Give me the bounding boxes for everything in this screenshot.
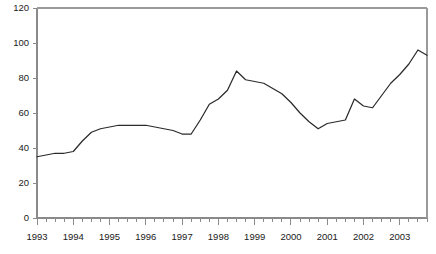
x-tick-label: 2002: [353, 231, 374, 242]
y-tick-label: 40: [18, 142, 29, 153]
x-tick-label: 2003: [389, 231, 410, 242]
y-tick-label: 80: [18, 72, 29, 83]
y-tick-label: 100: [13, 37, 29, 48]
data-series-line: [37, 50, 427, 157]
chart-container: 020406080100120 199319941995199619971998…: [0, 0, 436, 254]
x-tick-label: 2000: [280, 231, 301, 242]
y-tick-label: 20: [18, 177, 29, 188]
x-tick-label: 1996: [135, 231, 156, 242]
x-tick-label: 1995: [99, 231, 120, 242]
y-tick-label: 120: [13, 2, 29, 13]
x-tick-label: 1999: [244, 231, 265, 242]
x-tick-label: 1994: [63, 231, 84, 242]
x-tick-label: 2001: [317, 231, 338, 242]
x-tick-label: 1998: [208, 231, 229, 242]
y-axis-ticks: 020406080100120: [13, 2, 37, 223]
y-tick-label: 60: [18, 107, 29, 118]
x-tick-label: 1993: [26, 231, 47, 242]
x-axis-ticks: 1993199419951996199719981999200020012002…: [26, 218, 427, 242]
x-tick-label: 1997: [172, 231, 193, 242]
line-chart: 020406080100120 199319941995199619971998…: [0, 0, 436, 254]
y-tick-label: 0: [24, 212, 29, 223]
